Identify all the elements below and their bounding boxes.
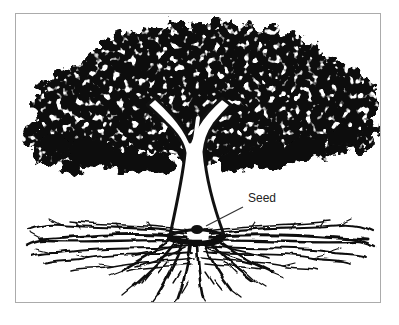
figure-tree-seed: Seed [0,0,399,325]
canopy-lump [286,136,326,160]
tree-illustration: Seed [0,0,399,325]
canopy-lump [106,147,150,173]
seed-dot [191,225,203,234]
seed-label: Seed [248,191,276,205]
canopy-lump [40,134,72,154]
canopy-lump [60,159,84,177]
canopy-lump [328,126,360,146]
canopy-lump [144,154,176,174]
